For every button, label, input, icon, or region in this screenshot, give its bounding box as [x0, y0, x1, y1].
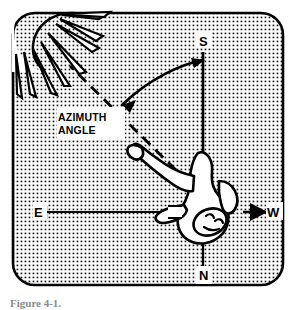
person-hand: [127, 145, 143, 160]
azimuth-angle-annotation: AZIMUTH ANGLE: [57, 107, 125, 139]
panel-border: [13, 13, 283, 285]
annotation-line-2: ANGLE: [58, 124, 96, 136]
south-label: S: [199, 34, 208, 49]
east-label: E: [34, 205, 43, 220]
west-label: W: [267, 205, 280, 220]
annotation-line-1: AZIMUTH: [58, 111, 107, 123]
azimuth-angle-diagram: AZIMUTH ANGLE S N E W: [0, 0, 296, 310]
figure-root: AZIMUTH ANGLE S N E W Figure 4-1.: [0, 0, 296, 310]
figure-caption: Figure 4-1.: [10, 296, 61, 310]
axis-person-overlap-mask: [168, 206, 182, 218]
north-label: N: [199, 268, 208, 283]
diagram-panel: [13, 13, 283, 285]
